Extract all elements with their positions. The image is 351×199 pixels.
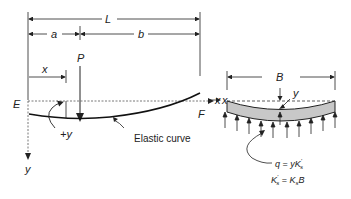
label-x-position: x bbox=[41, 63, 48, 75]
deflection-curved-arrow bbox=[49, 103, 60, 128]
beam-diagram: L a b x P x bbox=[0, 0, 351, 199]
load-P: P bbox=[76, 52, 85, 122]
dimension-x: x bbox=[29, 63, 66, 83]
equation-leader-arrow-icon bbox=[259, 130, 265, 136]
dimension-L: L bbox=[29, 13, 199, 25]
label-right-y: y bbox=[292, 87, 300, 99]
equation-q: q = yK's bbox=[275, 158, 303, 170]
label-plus-y: +y bbox=[60, 128, 73, 140]
equation-Ks: K's = KsB bbox=[271, 174, 304, 186]
curve-leader-line bbox=[114, 120, 124, 128]
label-F: F bbox=[198, 108, 206, 120]
load-arrow-head-icon bbox=[76, 113, 84, 122]
label-B: B bbox=[276, 71, 283, 83]
right-figure: B x y bbox=[210, 71, 337, 186]
label-a: a bbox=[51, 28, 57, 40]
label-E: E bbox=[13, 98, 21, 110]
dimension-b: b bbox=[81, 28, 199, 40]
dimension-a: a bbox=[29, 28, 79, 40]
label-L: L bbox=[105, 13, 111, 25]
label-elastic-curve: Elastic curve bbox=[134, 133, 191, 144]
label-y-axis: y bbox=[24, 163, 32, 175]
label-P: P bbox=[77, 52, 85, 64]
left-figure: L a b x P x bbox=[13, 12, 221, 175]
beam-section bbox=[227, 101, 335, 121]
deflection-arrow-head-icon bbox=[57, 99, 65, 107]
x-axis-arrow-icon bbox=[208, 98, 214, 104]
label-b: b bbox=[138, 28, 144, 40]
y-top-arrow-icon bbox=[278, 96, 283, 101]
equation-leader-line bbox=[247, 133, 272, 163]
y-axis-arrow-icon bbox=[25, 153, 31, 160]
